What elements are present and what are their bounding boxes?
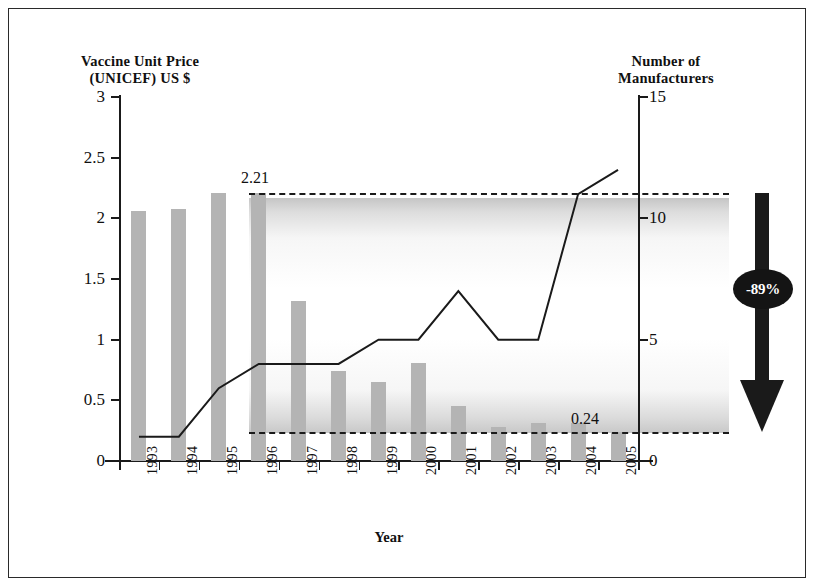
x-axis-tick <box>119 461 121 470</box>
right-axis-tick <box>639 96 648 98</box>
bar <box>211 193 226 461</box>
x-axis-tick-label: 2001 <box>464 446 480 475</box>
down-arrow-icon <box>740 380 784 432</box>
low-reference-line <box>249 432 729 434</box>
x-axis-tick-label: 1994 <box>185 446 201 475</box>
bar <box>531 423 546 461</box>
left-axis-tick <box>111 278 120 280</box>
x-axis-tick-label: 1995 <box>225 446 241 475</box>
left-axis-tick-label: 3 <box>59 88 105 105</box>
left-axis-tick <box>111 339 120 341</box>
decline-callout: -89% <box>735 193 791 433</box>
left-axis-tick-label: 1 <box>59 331 105 348</box>
right-axis-tick <box>639 217 648 219</box>
gradient-band <box>249 198 729 433</box>
bar <box>371 382 386 461</box>
left-axis-tick-label: 2 <box>59 209 105 226</box>
percent-change-badge: -89% <box>733 269 793 309</box>
left-axis-tick <box>111 96 120 98</box>
bar <box>251 193 266 461</box>
right-axis-tick-label: 0 <box>649 452 689 469</box>
right-axis-line <box>638 95 640 463</box>
right-axis-title: Number of Manufacturers <box>571 53 761 87</box>
high-value-label: 2.21 <box>241 169 269 187</box>
left-axis-tick-label: 0 <box>59 452 105 469</box>
bar <box>411 363 426 461</box>
right-axis-tick-label: 15 <box>649 88 689 105</box>
x-axis-title: Year <box>329 529 449 546</box>
x-axis-tick-label: 2005 <box>624 446 640 475</box>
bar <box>171 209 186 461</box>
bar <box>331 371 346 461</box>
high-reference-line <box>249 193 729 195</box>
bar <box>571 423 586 461</box>
bar <box>131 211 146 461</box>
x-axis-tick-label: 2000 <box>424 446 440 475</box>
x-axis-tick-label: 1998 <box>345 446 361 475</box>
left-axis-tick <box>111 157 120 159</box>
line-series <box>9 9 816 588</box>
x-axis-tick-label: 1996 <box>265 446 281 475</box>
x-axis-tick-label: 1997 <box>305 446 321 475</box>
left-axis-tick-label: 2.5 <box>59 149 105 166</box>
x-axis-tick-label: 2002 <box>504 446 520 475</box>
right-axis-tick <box>639 460 648 462</box>
left-axis-tick <box>111 217 120 219</box>
left-axis-tick-label: 1.5 <box>59 270 105 287</box>
bar <box>291 301 306 461</box>
bar <box>611 432 626 461</box>
low-value-label: 0.24 <box>571 410 599 428</box>
left-axis-title: Vaccine Unit Price (UNICEF) US $ <box>45 53 235 87</box>
x-axis-tick-label: 2004 <box>584 446 600 475</box>
left-axis-tick-label: 0.5 <box>59 391 105 408</box>
x-axis-tick-label: 2003 <box>544 446 560 475</box>
left-axis-tick <box>111 399 120 401</box>
chart-frame: Vaccine Unit Price (UNICEF) US $ Number … <box>8 8 806 578</box>
right-axis-tick-label: 5 <box>649 331 689 348</box>
right-axis-tick-label: 10 <box>649 209 689 226</box>
x-axis-tick-label: 1993 <box>145 446 161 475</box>
x-axis-tick-label: 1999 <box>385 446 401 475</box>
right-axis-tick <box>639 339 648 341</box>
